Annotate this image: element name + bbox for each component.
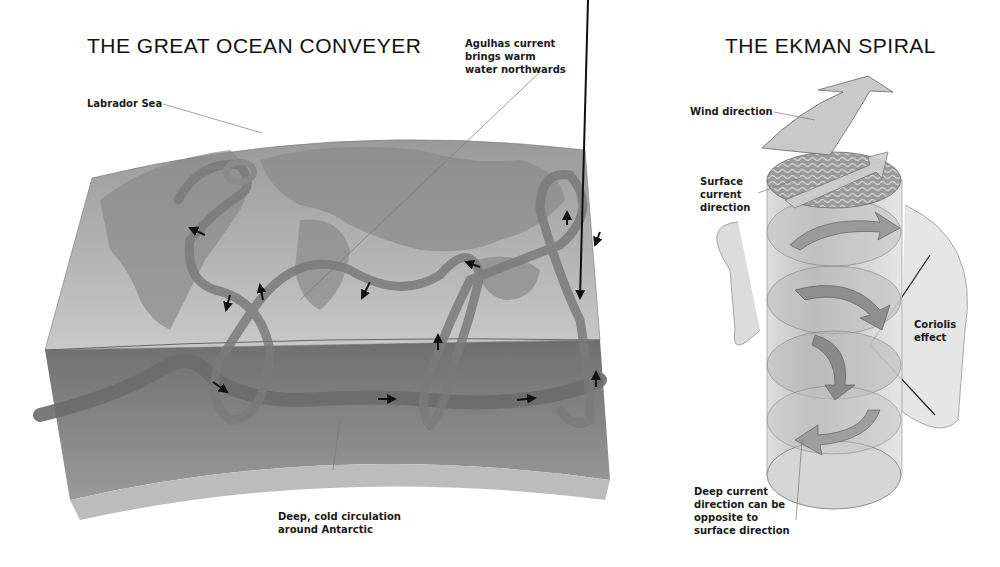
diagram-artwork — [0, 0, 1000, 567]
label-wind-direction: Wind direction — [690, 105, 773, 118]
label-agulhas-current: Agulhas current brings warm water northw… — [465, 37, 566, 76]
ocean-block — [45, 140, 610, 520]
label-deep-current: Deep current direction can be opposite t… — [694, 485, 790, 537]
label-deep-cold-circulation: Deep, cold circulation around Antarctic — [278, 510, 401, 536]
label-surface-current: Surface current direction — [700, 175, 750, 214]
ekman-cylinder — [717, 76, 968, 509]
label-labrador-sea: Labrador Sea — [87, 97, 162, 110]
label-coriolis-effect: Coriolis effect — [914, 318, 956, 344]
